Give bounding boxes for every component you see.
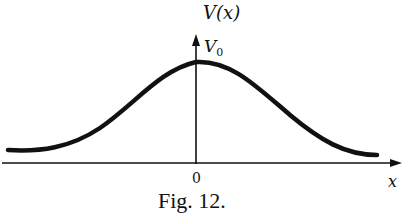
figure-canvas — [0, 0, 404, 216]
x-axis-arrow-icon — [390, 159, 402, 167]
peak-label-main: V — [204, 36, 216, 56]
peak-label-subscript: 0 — [216, 46, 223, 59]
x-axis-label: x — [388, 172, 397, 191]
figure-caption: Fig. 12. — [158, 188, 226, 214]
origin-label: 0 — [192, 170, 201, 186]
peak-label: V0 — [204, 36, 223, 59]
y-axis-label: V(x) — [203, 2, 240, 23]
potential-curve — [8, 62, 377, 155]
y-axis-arrow-icon — [192, 34, 200, 46]
